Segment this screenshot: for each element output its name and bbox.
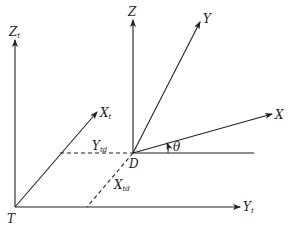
y-label: Y [203, 12, 212, 26]
xtd-offset-line [87, 153, 133, 207]
ytd-label: Ytd [92, 139, 108, 154]
theta-arc [167, 143, 168, 153]
x-label: X [274, 108, 284, 122]
x-axis [133, 114, 272, 153]
coordinate-diagram: Zt Xt Yt T Z Y X D Ytd Xtd θ [0, 0, 289, 228]
t-origin-label: T [7, 212, 16, 226]
z-label: Z [127, 5, 137, 19]
d-origin-label: D [128, 157, 139, 171]
xt-label: Xt [99, 106, 112, 121]
target-frame [15, 40, 240, 207]
zt-label: Zt [8, 25, 20, 40]
device-frame [133, 20, 272, 153]
theta-label: θ [173, 140, 181, 154]
xtd-label: Xtd [113, 178, 130, 193]
yt-label: Yt [243, 200, 254, 215]
y-axis [133, 22, 200, 153]
xt-axis [15, 112, 97, 207]
